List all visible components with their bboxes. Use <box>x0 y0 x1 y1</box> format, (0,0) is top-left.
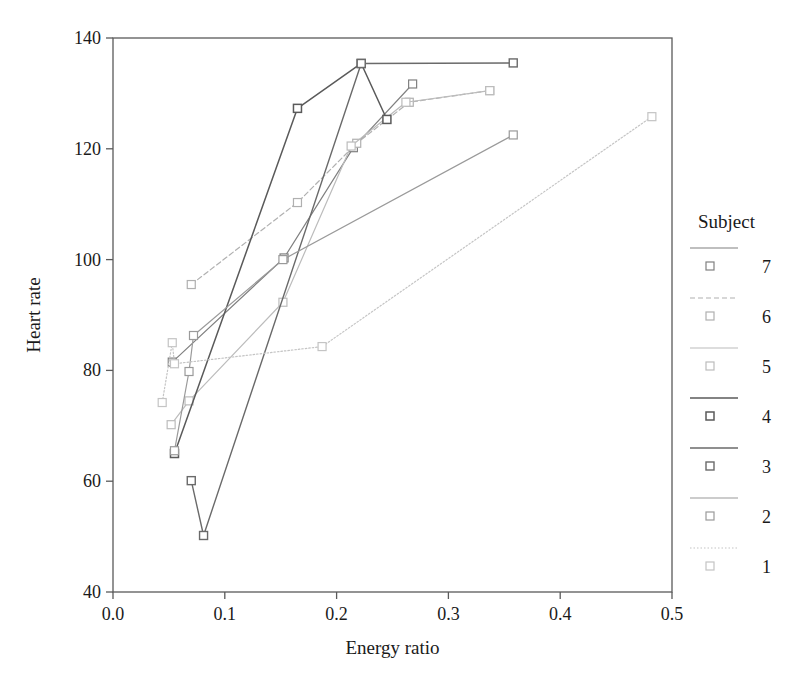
legend-marker-swatch <box>706 312 714 320</box>
legend-entry-label: 2 <box>762 507 771 527</box>
data-point-marker <box>187 281 195 289</box>
data-point-marker <box>409 80 417 88</box>
series-line <box>191 91 490 285</box>
series-5 <box>167 87 494 429</box>
data-point-marker <box>293 104 301 112</box>
axes-frame <box>113 38 672 592</box>
data-point-marker <box>402 98 410 106</box>
x-tick-label: 0.2 <box>325 604 348 624</box>
data-point-marker <box>187 477 195 485</box>
y-tick-label: 120 <box>74 139 101 159</box>
y-tick-label: 140 <box>74 28 101 48</box>
y-tick-label: 40 <box>83 582 101 602</box>
axis-labels-layer: 4060801001201400.00.10.20.30.40.5Energy … <box>23 28 683 658</box>
legend-entry-7[interactable]: 7 <box>690 248 771 277</box>
data-point-marker <box>168 339 176 347</box>
legend-entry-label: 4 <box>762 407 771 427</box>
data-point-marker <box>318 343 326 351</box>
chart-figure: 4060801001201400.00.10.20.30.40.5Energy … <box>0 0 804 678</box>
legend: Subject7654321 <box>690 211 771 577</box>
legend-title: Subject <box>698 211 756 232</box>
legend-entry-label: 1 <box>762 557 771 577</box>
y-tick-label: 100 <box>74 250 101 270</box>
x-tick-label: 0.3 <box>437 604 460 624</box>
series-6 <box>187 87 494 289</box>
legend-entry-1[interactable]: 1 <box>690 548 771 577</box>
data-series-layer <box>158 59 656 540</box>
legend-entry-5[interactable]: 5 <box>690 348 771 377</box>
plot-border <box>113 38 672 592</box>
data-point-marker <box>509 59 517 67</box>
data-point-marker <box>170 447 178 455</box>
x-axis-title: Energy ratio <box>345 637 439 658</box>
series-2 <box>170 131 517 455</box>
x-tick-label: 0.5 <box>661 604 684 624</box>
series-line <box>171 91 490 425</box>
legend-marker-swatch <box>706 562 714 570</box>
data-point-marker <box>357 59 365 67</box>
legend-entry-2[interactable]: 2 <box>690 498 771 527</box>
legend-marker-swatch <box>706 262 714 270</box>
legend-entry-label: 3 <box>762 457 771 477</box>
data-point-marker <box>167 421 175 429</box>
legend-entry-label: 7 <box>762 257 771 277</box>
data-point-marker <box>158 399 166 407</box>
legend-marker-swatch <box>706 512 714 520</box>
chart-svg: 4060801001201400.00.10.20.30.40.5Energy … <box>0 0 804 678</box>
y-axis-title: Heart rate <box>23 277 44 352</box>
data-point-marker <box>486 87 494 95</box>
data-point-marker <box>185 368 193 376</box>
data-point-marker <box>200 531 208 539</box>
legend-entry-3[interactable]: 3 <box>690 448 771 477</box>
legend-entry-6[interactable]: 6 <box>690 298 771 327</box>
series-line <box>162 117 652 403</box>
legend-marker-swatch <box>706 362 714 370</box>
legend-entry-label: 6 <box>762 307 771 327</box>
legend-marker-swatch <box>706 462 714 470</box>
series-line <box>174 135 513 451</box>
data-point-marker <box>383 115 391 123</box>
series-1 <box>158 113 656 407</box>
y-tick-label: 80 <box>83 360 101 380</box>
data-point-marker <box>509 131 517 139</box>
legend-entry-4[interactable]: 4 <box>690 398 771 427</box>
data-point-marker <box>279 256 287 264</box>
x-tick-label: 0.4 <box>549 604 572 624</box>
y-tick-label: 60 <box>83 471 101 491</box>
data-point-marker <box>293 199 301 207</box>
x-tick-label: 0.0 <box>102 604 125 624</box>
x-tick-label: 0.1 <box>214 604 237 624</box>
data-point-marker <box>347 142 355 150</box>
data-point-marker <box>648 113 656 121</box>
legend-entry-label: 5 <box>762 357 771 377</box>
data-point-marker <box>170 360 178 368</box>
data-point-marker <box>189 331 197 339</box>
legend-marker-swatch <box>706 412 714 420</box>
